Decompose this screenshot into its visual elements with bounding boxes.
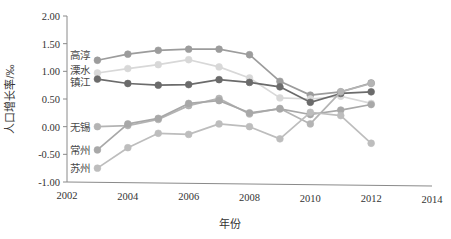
population-growth-line-chart: 人口增长率/‰ -1.00-0.500.000.501.001.502.0020… [0,0,451,239]
data-point [216,46,223,53]
series-line [97,112,371,168]
x-tick-label: 2002 [57,190,78,201]
series-label-0: 高淳 [70,49,91,61]
data-point [277,94,284,101]
x-tick-label: 2008 [239,192,260,203]
series-line [97,84,371,127]
data-point [155,130,162,137]
series-line [97,79,371,102]
data-point [124,80,131,87]
data-point [307,109,314,116]
data-point [124,65,131,72]
data-point [94,70,101,77]
data-point [368,140,375,147]
data-point [277,135,284,142]
data-point [185,46,192,53]
data-series-group [94,46,375,172]
data-point [185,100,192,107]
x-tick-label: 2010 [300,193,321,204]
data-point [277,106,284,113]
data-point [94,123,101,130]
y-tick-label: 0.50 [42,94,60,105]
y-tick-label: 1.00 [42,66,60,77]
x-tick-label: 2012 [361,193,382,204]
data-point [185,56,192,63]
y-tick-label: -0.50 [38,149,60,160]
y-tick-label: 0.00 [42,122,60,133]
data-point [246,123,253,130]
data-point [124,121,131,128]
data-point [216,64,223,71]
data-point [307,121,314,128]
data-point [216,121,223,128]
series-labels-group: 高淳溧水镇江无锡常州苏州 [70,49,91,174]
chart-canvas: 人口增长率/‰ -1.00-0.500.000.501.001.502.0020… [0,0,451,239]
data-point [94,147,101,154]
axes-group [63,16,432,186]
data-point [368,80,375,87]
data-point [368,101,375,108]
y-axis-title-group: 人口增长率/‰ [3,64,16,133]
y-tick-label: 1.50 [42,39,60,50]
series-label-2: 镇江 [70,76,91,88]
series-label-5: 苏州 [70,162,90,174]
tick-labels-group: -1.00-0.500.000.501.001.502.002002200420… [38,11,443,205]
data-point [216,97,223,104]
data-point [155,47,162,54]
x-tick-label: 2006 [178,191,199,202]
data-point [246,109,253,116]
x-tick-label: 2014 [422,194,444,205]
data-point [216,76,223,83]
data-point [337,88,344,95]
data-point [124,51,131,58]
y-tick-label: 2.00 [42,11,60,22]
y-tick-label: -1.00 [38,177,60,188]
series-label-3: 无锡 [70,121,90,133]
data-point [94,76,101,83]
data-point [94,165,101,172]
y-axis-title: 人口增长率/‰ [3,64,16,133]
series-5 [94,109,375,172]
data-point [368,88,375,95]
data-point [337,112,344,119]
x-axis-line [67,182,432,186]
data-point [155,115,162,122]
data-point [307,99,314,106]
data-point [185,81,192,88]
x-axis-title-group: 年份 [219,217,241,230]
series-label-1: 溧水 [70,64,91,76]
data-point [246,51,253,58]
data-point [124,144,131,151]
series-label-4: 常州 [70,144,90,156]
data-point [155,82,162,89]
data-point [246,79,253,86]
data-point [277,83,284,90]
data-point [185,131,192,138]
x-tick-label: 2004 [117,191,139,202]
x-axis-title: 年份 [219,217,241,230]
data-point [155,61,162,68]
data-point [94,57,101,64]
